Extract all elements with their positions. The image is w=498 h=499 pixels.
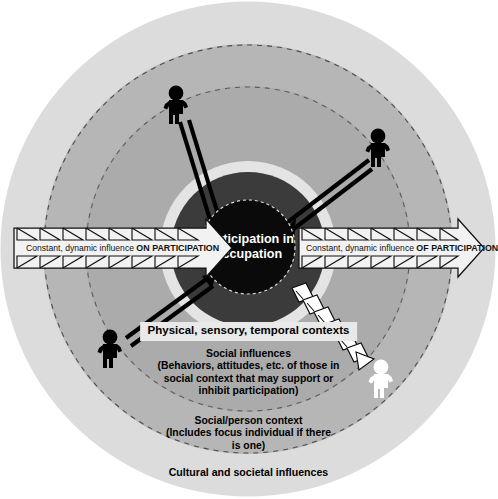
label-cultural-societal: Cultural and societal influences	[84, 466, 414, 479]
label-social-person-context: Social/person context (Includes focus in…	[99, 415, 399, 452]
label-social-influences: Social influences (Behaviors, attitudes,…	[99, 348, 399, 397]
figure-top-right	[366, 129, 391, 167]
label-physical-sensory-temporal: Physical, sensory, temporal contexts	[140, 322, 358, 341]
figure-top-left	[164, 86, 189, 124]
